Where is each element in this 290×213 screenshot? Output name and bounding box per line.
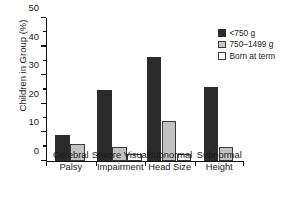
y-tick-label: 30 xyxy=(28,59,39,70)
legend-label: 750–1499 g xyxy=(230,39,274,49)
legend-label: Born at term xyxy=(230,51,276,61)
x-category-label-line: Height xyxy=(189,162,251,174)
y-tick-label: 10 xyxy=(28,116,39,127)
y-tick-major xyxy=(41,45,46,46)
y-tick-label: 40 xyxy=(28,30,39,41)
legend-swatch-icon xyxy=(218,29,226,37)
y-tick-major xyxy=(41,131,46,132)
legend-swatch-icon xyxy=(218,41,226,49)
legend-item: 750–1499 g xyxy=(218,39,275,51)
y-axis-line xyxy=(46,18,47,161)
y-tick-label: 0 xyxy=(34,145,39,156)
y-tick-label: 20 xyxy=(28,87,39,98)
y-tick-minor xyxy=(43,117,46,118)
bar xyxy=(147,57,162,161)
y-tick-major xyxy=(41,74,46,75)
y-tick-major xyxy=(41,103,46,104)
legend-swatch-icon xyxy=(218,52,226,60)
y-axis-title: Children in Group (%) xyxy=(17,0,28,136)
legend-item: Born at term xyxy=(218,50,275,62)
y-tick-label: 50 xyxy=(28,2,39,13)
y-tick-minor xyxy=(43,60,46,61)
x-category-label: SubnormalHeight xyxy=(189,150,251,173)
y-tick-minor xyxy=(43,88,46,89)
bar-group xyxy=(97,18,142,161)
legend-item: <750 g xyxy=(218,27,275,39)
x-category-label-line: Subnormal xyxy=(189,150,251,162)
bar-group xyxy=(55,18,85,161)
y-tick-minor xyxy=(43,145,46,146)
plot-area: 01020304050 xyxy=(46,18,244,161)
bar-chart-figure: Children in Group (%) 01020304050 Cerebr… xyxy=(0,0,290,213)
y-tick-minor xyxy=(43,31,46,32)
legend-label: <750 g xyxy=(230,28,256,38)
y-tick-major xyxy=(41,17,46,18)
bar-group xyxy=(147,18,192,161)
chart-legend: <750 g750–1499 gBorn at term xyxy=(218,27,275,62)
